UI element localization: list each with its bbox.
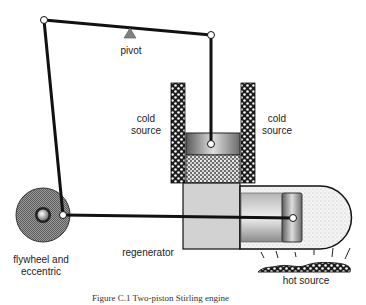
joint-displacer <box>208 141 215 148</box>
cold-source-left <box>171 83 185 183</box>
hot-source <box>258 262 350 272</box>
label-flywheel-line1: flywheel and <box>8 254 74 266</box>
label-hot-source: hot source <box>276 275 336 287</box>
joint-right-top <box>208 32 215 39</box>
label-pivot: pivot <box>116 45 146 57</box>
label-cold-source-left: cold source <box>126 113 166 137</box>
label-cold-source-left-line2: source <box>126 125 166 137</box>
label-cold-source-right-line2: source <box>257 125 297 137</box>
figure-caption: Figure C.1 Two-piston Stirling engine <box>92 293 229 303</box>
joint-left-top <box>41 17 48 24</box>
joint-eccentric <box>60 212 67 219</box>
label-cold-source-right-line1: cold <box>257 113 297 125</box>
label-cold-source-right: cold source <box>257 113 297 137</box>
regenerator-mesh <box>186 155 240 183</box>
label-cold-source-left-line1: cold <box>126 113 166 125</box>
label-flywheel: flywheel and eccentric <box>8 254 74 278</box>
cold-source-right <box>241 83 255 183</box>
label-flywheel-line2: eccentric <box>8 266 74 278</box>
joint-power-piston <box>290 215 297 222</box>
label-regenerator: regenerator <box>118 247 178 259</box>
